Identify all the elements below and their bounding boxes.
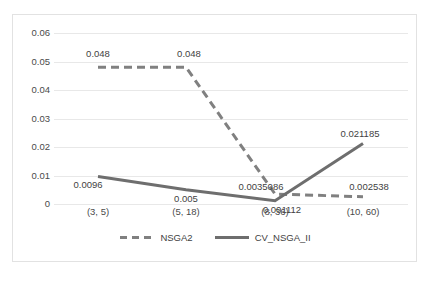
y-axis-tick: 0.05 bbox=[32, 57, 51, 67]
x-axis-tick: (8, 36) bbox=[261, 206, 288, 218]
data-label: 0.005 bbox=[174, 193, 198, 204]
data-label: 0.048 bbox=[177, 48, 201, 59]
x-axis-tick-labels: (3, 5) (5, 18) (8, 36) (10, 60) bbox=[54, 206, 408, 222]
series-line-nsga2 bbox=[98, 67, 363, 197]
data-label: 0.0096 bbox=[73, 179, 102, 190]
y-axis-tick: 0.01 bbox=[32, 171, 51, 181]
legend-label: CV_NSGA_II bbox=[255, 232, 311, 243]
x-axis-tick: (10, 60) bbox=[347, 206, 380, 218]
dashed-line-swatch-icon bbox=[120, 236, 154, 239]
y-axis-tick: 0 bbox=[45, 199, 50, 209]
plot-area: 0.048 0.048 0.0035086 0.002538 0.0096 0.… bbox=[54, 33, 408, 204]
solid-line-swatch-icon bbox=[215, 236, 249, 239]
gridline bbox=[54, 204, 408, 205]
legend-label: NSGA2 bbox=[160, 232, 192, 243]
data-label: 0.0035086 bbox=[239, 181, 284, 192]
chart-legend: NSGA2 CV_NSGA_II bbox=[13, 227, 418, 247]
y-axis-tick: 0.03 bbox=[32, 114, 51, 124]
legend-item-nsga2[interactable]: NSGA2 bbox=[120, 232, 192, 243]
y-axis-tick: 0.04 bbox=[32, 85, 51, 95]
y-axis-tick: 0.02 bbox=[32, 142, 51, 152]
y-axis-tick-labels: 0.06 0.05 0.04 0.03 0.02 0.01 0 bbox=[13, 33, 50, 204]
series-line-cv-nsga-ii bbox=[98, 144, 363, 201]
x-axis-tick: (5, 18) bbox=[172, 206, 199, 218]
legend-item-cv-nsga-ii[interactable]: CV_NSGA_II bbox=[215, 232, 311, 243]
line-chart: 0.06 0.05 0.04 0.03 0.02 0.01 0 0.048 0.… bbox=[12, 14, 417, 262]
x-axis-tick: (3, 5) bbox=[87, 206, 109, 218]
data-label: 0.002538 bbox=[349, 181, 389, 192]
data-label: 0.048 bbox=[86, 48, 110, 59]
data-label: 0.021185 bbox=[341, 128, 380, 139]
y-axis-tick: 0.06 bbox=[32, 28, 51, 38]
